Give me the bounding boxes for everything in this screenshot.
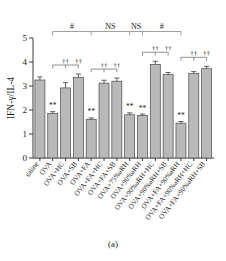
ytick-label-5: 5: [23, 33, 28, 43]
dagger-mark: ††: [101, 61, 109, 69]
bar: [189, 74, 199, 158]
dagger-bracket: [142, 52, 168, 55]
dagger-bracket: [91, 69, 117, 72]
x-axis-labels: salineOVAOVA+HCOVA+SBOVA+FAOVA+FA+HCOVA+…: [24, 160, 207, 222]
top-bracket-line: [53, 32, 181, 36]
bar-chart: 0 1 2 3 4 5 IFN-γ/IL-4 ********** ††††††…: [0, 0, 226, 261]
bar-significance-mark: **: [87, 107, 95, 116]
ytick-label-4: 4: [23, 57, 28, 67]
bar-significance-mark: **: [177, 111, 185, 120]
bar: [61, 88, 71, 158]
dagger-bracket: [53, 65, 79, 68]
error-bar: [101, 80, 106, 83]
error-bar: [37, 77, 42, 80]
top-comparison-label: #: [160, 22, 164, 31]
bar: [48, 114, 58, 158]
bar: [35, 80, 45, 158]
dagger-mark: ††: [190, 49, 198, 57]
bar-significance-mark: **: [49, 101, 57, 110]
bar: [73, 78, 83, 158]
dagger-mark: ††: [165, 44, 173, 52]
dagger-mark: ††: [75, 57, 83, 65]
error-bar: [153, 61, 158, 64]
ytick-label-1: 1: [23, 129, 28, 139]
bar: [86, 120, 96, 158]
top-comparison-label: NS: [131, 22, 141, 31]
bar: [125, 115, 135, 158]
ytick-label-3: 3: [23, 81, 28, 91]
figure-panel: 0 1 2 3 4 5 IFN-γ/IL-4 ********** ††††††…: [0, 0, 226, 261]
dagger-mark: ††: [62, 57, 70, 65]
panel-caption: (a): [0, 239, 226, 249]
top-comparison-label: #: [70, 22, 74, 31]
dagger-mark: ††: [203, 49, 211, 57]
bar: [99, 83, 109, 158]
error-bar: [63, 83, 68, 88]
top-comparison-bracket: #NSNS#: [53, 22, 181, 36]
y-axis-ticks: 0 1 2 3 4 5: [23, 33, 34, 163]
bar: [163, 74, 173, 158]
ytick-label-2: 2: [23, 105, 28, 115]
bar: [112, 81, 122, 158]
top-comparison-label: NS: [105, 22, 115, 31]
error-bar: [204, 66, 209, 68]
bar: [150, 64, 160, 158]
dagger-mark: ††: [152, 44, 160, 52]
bar-significance-mark: **: [139, 104, 147, 113]
bar: [202, 69, 212, 158]
bars-group: [35, 64, 212, 158]
bar: [137, 116, 147, 158]
dagger-mark: ††: [113, 61, 121, 69]
dagger-bracket: [181, 57, 207, 60]
ytick-label-0: 0: [23, 153, 28, 163]
error-bar: [114, 78, 119, 81]
bar: [176, 123, 186, 158]
dagger-brackets-group: ††††††††††††††††: [53, 44, 211, 72]
error-bar: [76, 74, 81, 78]
bar-significance-mark: **: [126, 102, 134, 111]
x-axis-label: saline: [24, 160, 41, 178]
y-axis-label: IFN-γ/IL-4: [6, 77, 16, 119]
